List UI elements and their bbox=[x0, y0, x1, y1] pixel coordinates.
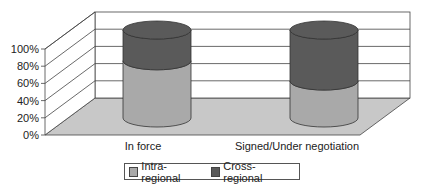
svg-text:20%: 20% bbox=[17, 112, 39, 124]
svg-text:Signed/Under negotiation: Signed/Under negotiation bbox=[235, 140, 359, 152]
intra-swatch-icon bbox=[129, 167, 138, 177]
svg-text:40%: 40% bbox=[17, 95, 39, 107]
svg-text:80%: 80% bbox=[17, 60, 39, 72]
cylinder-segment bbox=[123, 61, 191, 127]
cylinder-segment bbox=[290, 21, 358, 90]
legend-item-intra: Intra-regional bbox=[129, 160, 201, 184]
cylinder-segment bbox=[123, 21, 191, 70]
cross-swatch-icon bbox=[211, 167, 220, 177]
category-labels: In forceSigned/Under negotiation bbox=[125, 140, 359, 152]
svg-text:0%: 0% bbox=[23, 129, 39, 141]
svg-text:In force: In force bbox=[125, 140, 162, 152]
legend: Intra-regional Cross-regional bbox=[124, 163, 300, 180]
svg-text:60%: 60% bbox=[17, 77, 39, 89]
legend-item-cross: Cross-regional bbox=[211, 160, 289, 184]
y-axis-ticks: 0%20%40%60%80%100% bbox=[11, 43, 45, 141]
svg-text:100%: 100% bbox=[11, 43, 39, 55]
